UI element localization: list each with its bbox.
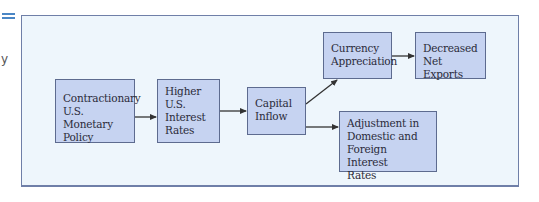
node-contractionary-policy: Contractionary U.S. Monetary Policy bbox=[55, 79, 135, 143]
arrow-inflow-to-appreciation bbox=[306, 80, 337, 104]
node-capital-inflow: Capital Inflow bbox=[247, 87, 306, 135]
node-higher-interest-rates: Higher U.S. Interest Rates bbox=[157, 79, 220, 143]
node-decreased-net-exports: Decreased Net Exports bbox=[415, 32, 486, 79]
node-interest-rate-adjustment: Adjustment in Domestic and Foreign Inter… bbox=[339, 111, 437, 172]
node-currency-appreciation: Currency Appreciation bbox=[323, 32, 392, 79]
